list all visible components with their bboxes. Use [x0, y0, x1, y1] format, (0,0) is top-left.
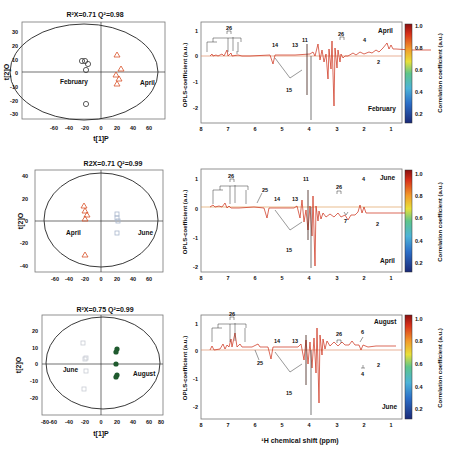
svg-text:7: 7	[226, 126, 229, 132]
score-plot-2-title: R2X=0.71 Q²=0.99	[84, 160, 143, 168]
svg-text:1.0: 1.0	[415, 171, 423, 177]
x-tick-labels: 8765 4321	[199, 275, 392, 281]
svg-text:6: 6	[253, 275, 256, 281]
svg-text:40: 40	[130, 125, 136, 131]
svg-text:26: 26	[338, 31, 344, 37]
svg-text:14: 14	[274, 338, 281, 344]
svg-text:-20: -20	[81, 125, 89, 131]
svg-text:0: 0	[99, 419, 102, 425]
score-plot-1: R²X=0.71 Q²=0.98 302010 0-10-20-30 -60-4…	[3, 11, 165, 143]
svg-text:-1: -1	[193, 235, 198, 241]
svg-text:1: 1	[195, 321, 198, 327]
june-markers	[81, 341, 88, 391]
group-label-top: June	[380, 174, 396, 181]
svg-text:20: 20	[114, 276, 120, 282]
plot-frame	[201, 169, 402, 272]
svg-text:13: 13	[292, 42, 298, 48]
svg-text:5: 5	[280, 275, 283, 281]
svg-text:-60: -60	[49, 419, 57, 425]
x-tick-labels: 8765 4321	[199, 126, 392, 132]
svg-text:7: 7	[344, 218, 347, 224]
y-axis-label: t[2]O	[15, 356, 23, 373]
svg-text:0.8: 0.8	[415, 45, 423, 51]
svg-text:60: 60	[146, 276, 152, 282]
august-markers	[113, 346, 119, 379]
svg-text:20: 20	[114, 125, 120, 131]
svg-text:11: 11	[303, 176, 309, 182]
svg-text:-20: -20	[10, 98, 18, 104]
svg-text:1: 1	[195, 176, 198, 182]
y-tick-labels: 10-1-2	[193, 176, 198, 270]
svg-text:0: 0	[25, 218, 28, 224]
svg-text:4: 4	[307, 126, 311, 132]
score-plot-1-title: R²X=0.71 Q²=0.98	[66, 11, 123, 19]
group-label-bottom: April	[380, 257, 395, 265]
svg-text:-20: -20	[20, 240, 28, 246]
figure-canvas: R²X=0.71 Q²=0.98 302010 0-10-20-30 -60-4…	[0, 0, 451, 457]
svg-text:8: 8	[199, 422, 202, 428]
loading-plot-2: OPLS-coefficient (a.u.) 10-1-2 8765 4321…	[182, 169, 443, 281]
svg-text:20: 20	[114, 419, 120, 425]
svg-text:0.4: 0.4	[415, 89, 424, 95]
colorbar	[405, 170, 412, 272]
svg-text:11: 11	[302, 37, 308, 43]
peak-annotations: 261413 111526 42	[226, 25, 380, 93]
group-label-top: April	[378, 27, 393, 35]
spectrum-trace	[210, 41, 431, 106]
svg-text:30: 30	[12, 29, 18, 35]
colorbar-label: Correlation coefficient (a.u.)	[437, 33, 443, 113]
colorbar-tick-labels: 1.00.80.60.40.2	[415, 316, 424, 412]
svg-text:1.0: 1.0	[415, 316, 423, 322]
loading-plot-3: OPLS-coefficient (a.u.) 10-1-2 8765 4321…	[182, 311, 443, 445]
svg-text:8: 8	[199, 126, 202, 132]
svg-text:-20: -20	[81, 276, 89, 282]
svg-text:-1: -1	[193, 376, 198, 382]
svg-text:-1: -1	[193, 79, 198, 85]
svg-text:-10: -10	[30, 378, 38, 384]
svg-text:-40: -40	[65, 276, 73, 282]
group-label-bottom: February	[368, 105, 396, 113]
group-label-bottom: June	[382, 403, 398, 410]
svg-text:0.6: 0.6	[415, 67, 423, 73]
svg-text:0: 0	[195, 53, 198, 59]
x-axis-label: t[1]P	[93, 135, 109, 143]
svg-text:-2: -2	[193, 264, 198, 270]
svg-text:25: 25	[257, 360, 263, 366]
svg-text:-60: -60	[50, 125, 58, 131]
svg-text:0.8: 0.8	[415, 338, 423, 344]
svg-text:1: 1	[389, 422, 392, 428]
svg-text:-40: -40	[65, 419, 73, 425]
group-label-june: June	[63, 366, 79, 373]
svg-text:20: 20	[12, 43, 18, 49]
score-plot-3: R²X=0.75 Q²=0.99 20100 -10-20 -80-60-40-…	[15, 306, 164, 438]
x-axis-label: t[1]P	[93, 430, 109, 438]
svg-text:60: 60	[146, 419, 152, 425]
svg-text:10: 10	[12, 57, 18, 63]
svg-text:15: 15	[286, 247, 292, 253]
svg-text:0: 0	[195, 348, 198, 354]
colorbar-label: Correlation coefficient (a.u.)	[437, 182, 443, 262]
svg-text:14: 14	[272, 42, 279, 48]
svg-text:2: 2	[377, 59, 380, 65]
svg-text:3: 3	[335, 422, 338, 428]
svg-text:-60: -60	[51, 276, 59, 282]
svg-text:6: 6	[253, 126, 256, 132]
plot-frame	[201, 315, 402, 419]
svg-text:40: 40	[22, 173, 28, 179]
spectrum-trace	[210, 328, 396, 403]
y-tick-labels: 302010 0-10-20-30	[10, 29, 18, 117]
svg-text:8: 8	[199, 275, 202, 281]
colorbar-label: Correlation coefficient (a.u.)	[437, 328, 443, 408]
svg-text:0.4: 0.4	[415, 384, 424, 390]
plot-frame	[42, 315, 163, 415]
svg-text:80: 80	[158, 419, 164, 425]
svg-text:0: 0	[35, 361, 38, 367]
group-label-top: August	[374, 318, 397, 326]
svg-text:26: 26	[226, 25, 232, 31]
june-markers	[115, 212, 120, 235]
x-tick-labels: 8765 4321	[199, 422, 392, 428]
svg-text:0.2: 0.2	[415, 111, 423, 117]
svg-text:-20: -20	[81, 419, 89, 425]
y-axis-label: t[2]O	[17, 212, 25, 229]
svg-text:0.6: 0.6	[415, 215, 423, 221]
